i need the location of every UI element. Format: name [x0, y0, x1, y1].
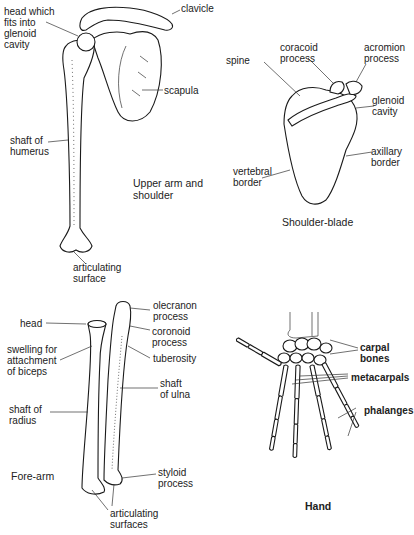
phalanx-bone: [275, 396, 282, 420]
caption-fore-arm: Fore-arm: [11, 470, 54, 482]
hand-drawing: [236, 312, 358, 457]
phalanx-bone: [344, 404, 353, 417]
label-shaft-radius: shaft of radius: [9, 404, 42, 426]
label-metacarpals: metacarpals: [351, 372, 409, 383]
label-shaft-ulna: shaft of ulna: [160, 378, 190, 400]
label-articulating-surfaces: articulating surfaces: [110, 508, 158, 530]
phalanx-bone: [236, 338, 249, 347]
label-vertebral: vertebral border: [233, 166, 272, 188]
coracoid: [330, 81, 344, 94]
fore-arm-drawing: [46, 302, 158, 511]
radius-bone: [82, 321, 106, 494]
upper-arm-drawing: [46, 7, 180, 264]
label-tuberosity: tuberosity: [153, 353, 196, 364]
phalanx-bone: [293, 443, 297, 457]
metacarpal-bone: [295, 365, 300, 399]
phalanx-bone: [248, 345, 262, 355]
label-styloid: styloid process: [158, 467, 193, 489]
label-radius-head: head: [20, 318, 42, 329]
label-clavicle: clavicle: [181, 3, 214, 14]
metacarpal-bone: [310, 365, 320, 396]
label-articulating-surface: articulating surface: [73, 262, 121, 284]
radius-head: [88, 321, 106, 328]
label-coronoid: coronoid process: [152, 326, 190, 348]
label-phalanges: phalanges: [364, 405, 413, 416]
phalanx-bone: [335, 387, 347, 405]
metacarpal-bone: [322, 363, 338, 388]
label-scapula: scapula: [164, 85, 198, 96]
label-olecranon: olecranon process: [153, 300, 197, 322]
shoulder-blade-drawing: [262, 58, 374, 204]
phalanx-bone: [351, 416, 359, 427]
label-acromion: acromion process: [364, 42, 405, 64]
caption-shoulder-blade: Shoulder-blade: [282, 216, 353, 228]
phalanx-bone: [294, 424, 298, 444]
phalanx-bone: [270, 436, 276, 450]
acromion: [346, 81, 362, 94]
label-spine: spine: [226, 55, 250, 66]
label-shaft-humerus: shaft of humerus: [10, 135, 49, 157]
phalanx-bone: [272, 419, 278, 437]
caption-hand: Hand: [305, 500, 331, 512]
label-coracoid: coracoid process: [280, 42, 318, 64]
phalanx-bone: [317, 396, 325, 420]
caption-upper-arm: Upper arm and shoulder: [133, 177, 203, 201]
label-humerus-head: head which fits into glenoid cavity: [4, 6, 55, 50]
label-swelling-biceps: swelling for attachment of biceps: [7, 344, 57, 377]
label-axillary: axillary border: [371, 146, 402, 168]
humerus-bone: [60, 40, 94, 252]
scapula-bone: [92, 32, 161, 121]
label-glenoid: glenoid cavity: [372, 95, 404, 117]
phalanx-bone: [325, 436, 331, 450]
phalanx-bone: [294, 398, 298, 424]
anatomy-illustration: [0, 0, 414, 535]
phalanx-bone: [322, 419, 329, 437]
metacarpal-bone: [279, 365, 288, 397]
carpal-bones: [278, 338, 332, 365]
humerus-head: [77, 33, 95, 51]
label-carpal-bones: carpal bones: [360, 342, 389, 364]
clavicle-bone: [80, 7, 173, 30]
